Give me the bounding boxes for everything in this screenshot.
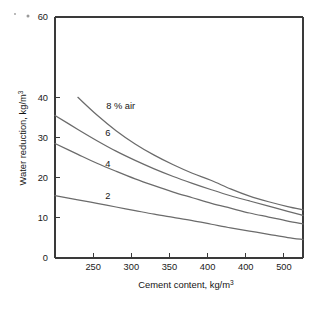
x-tick-label-2: 350: [162, 262, 178, 272]
data-curves: [55, 97, 303, 239]
y-tick-label-30: 30: [38, 133, 48, 143]
curve-8-air: [78, 97, 303, 209]
y-tick-label-20: 20: [38, 173, 48, 183]
x-tick-label-5: 500: [276, 262, 292, 272]
y-tick-label-40: 40: [38, 93, 48, 103]
series-label-2: 2: [105, 191, 110, 201]
figure-container: 01020304060 250300350400400500 8 % air64…: [0, 0, 317, 310]
series-label-6: 6: [105, 128, 110, 138]
scan-speck: [27, 15, 30, 18]
y-tick-label-60: 60: [38, 12, 48, 22]
x-tick-label-3: 400: [200, 262, 216, 272]
y-tick-label-0: 0: [43, 253, 48, 263]
y-axis-title: Water reduction, kg/m3: [17, 90, 28, 185]
series-annotations: 8 % air642: [105, 101, 135, 202]
curve-4: [55, 144, 303, 224]
water-reduction-chart: 01020304060 250300350400400500 8 % air64…: [0, 0, 317, 310]
x-tick-label-1: 300: [124, 262, 140, 272]
series-label-4: 4: [105, 159, 110, 169]
x-axis-title: Cement content, kg/m3: [138, 279, 234, 290]
x-axis-tick-labels: 250300350400400500: [85, 262, 291, 272]
x-tick-label-4: 400: [238, 262, 254, 272]
x-tick-label-0: 250: [85, 262, 101, 272]
scan-speck: [14, 13, 16, 15]
x-axis-ticks: [93, 253, 284, 258]
curve-2: [55, 196, 303, 240]
series-label-8-air: 8 % air: [106, 101, 135, 111]
y-axis-tick-labels: 01020304060: [38, 12, 48, 263]
y-tick-label-10: 10: [38, 213, 48, 223]
